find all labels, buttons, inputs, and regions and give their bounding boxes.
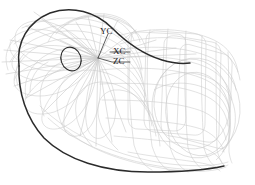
mesh-origin-fan — [2, 12, 196, 146]
wireframe-diagram-canvas: YC XC ZC — [0, 0, 255, 185]
axis-label-xc: XC — [113, 47, 126, 56]
axis-label-yc: YC — [100, 27, 113, 36]
mesh-left-ribbon — [10, 18, 160, 150]
diagram-vector-layer — [0, 0, 255, 185]
axis-label-zc: ZC — [113, 57, 125, 66]
